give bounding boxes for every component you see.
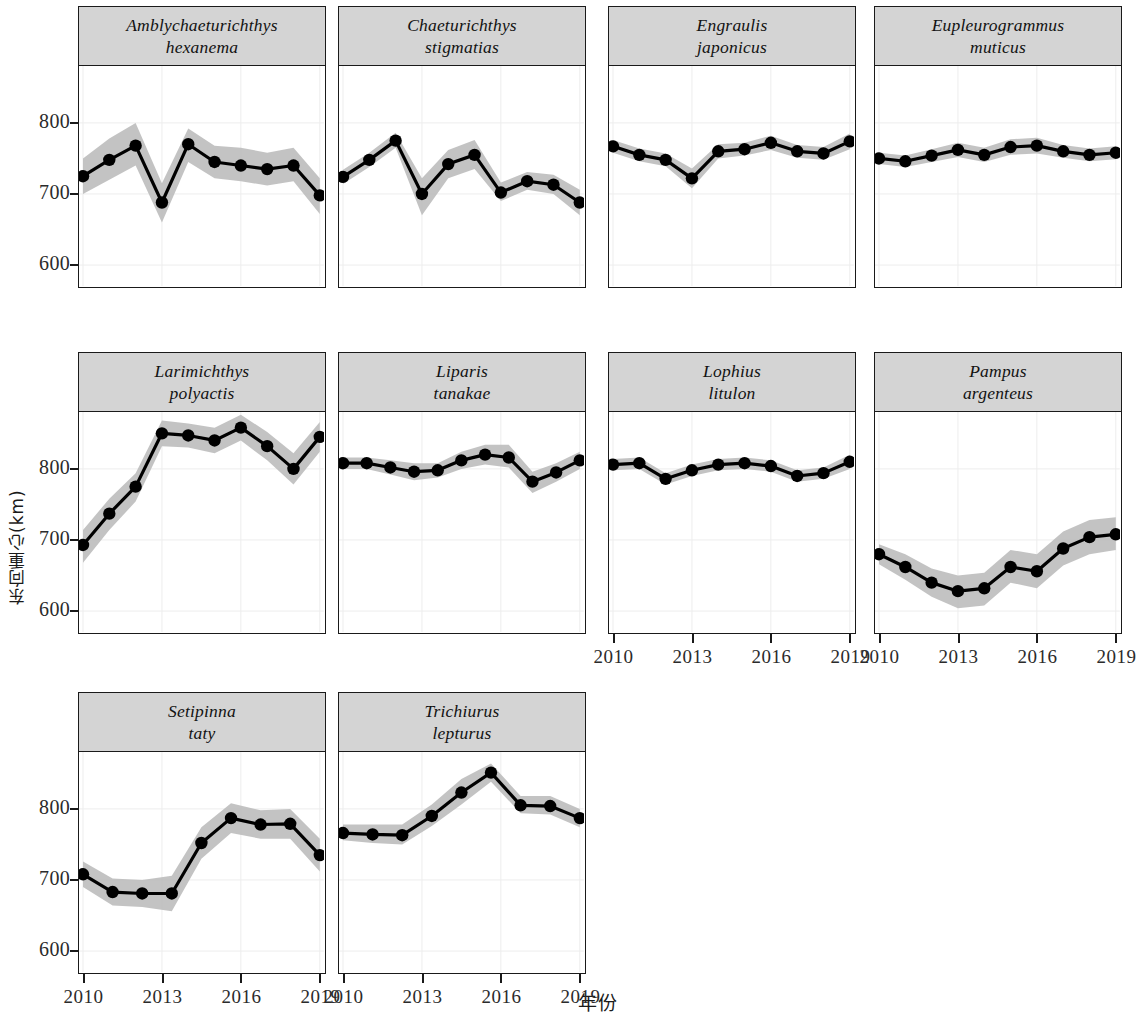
data-point: [765, 137, 777, 149]
data-point: [468, 149, 480, 161]
panel-title-genus: Setipinna: [79, 700, 325, 722]
data-point: [208, 434, 220, 446]
data-point: [738, 457, 750, 469]
panel-plot-area: [338, 752, 586, 974]
series-plot: [609, 66, 854, 286]
data-point: [1083, 149, 1095, 161]
data-point: [978, 582, 990, 594]
data-point: [738, 143, 750, 155]
data-point: [432, 464, 444, 476]
panel-title-strip: Setipinnataty: [78, 692, 326, 752]
data-point: [686, 172, 698, 184]
x-tick-label: 2019: [1081, 646, 1137, 668]
x-tick-mark: [422, 974, 424, 983]
data-point: [103, 154, 115, 166]
x-tick-mark: [162, 974, 164, 983]
data-point: [952, 144, 964, 156]
x-tick-label: 2019: [545, 986, 615, 1008]
x-tick-mark: [879, 634, 881, 643]
panel-title-genus: Chaeturichthys: [339, 14, 585, 36]
data-point: [503, 451, 515, 463]
data-point: [1057, 145, 1069, 157]
x-tick-label: 2010: [49, 986, 119, 1008]
x-tick-label: 2013: [388, 986, 458, 1008]
confidence-band: [83, 803, 320, 911]
y-tick-mark: [70, 468, 79, 470]
x-tick-mark: [1115, 634, 1117, 643]
panel-plot-area: [78, 412, 326, 634]
data-point: [791, 470, 803, 482]
data-point: [521, 175, 533, 187]
x-tick-label: 2010: [579, 646, 649, 668]
data-point: [366, 828, 378, 840]
series-plot: [339, 752, 584, 972]
data-point: [899, 561, 911, 573]
data-point: [550, 466, 562, 478]
panel-title-strip: Pampusargenteus: [874, 352, 1122, 412]
panel-title-species: tanakae: [339, 382, 585, 404]
panel-chaeturichthys-stigmatias: Chaeturichthysstigmatias: [338, 6, 586, 288]
data-point: [633, 457, 645, 469]
x-tick-label: 2016: [1002, 646, 1072, 668]
data-point: [287, 159, 299, 171]
data-point: [952, 585, 964, 597]
data-point: [182, 429, 194, 441]
data-point: [156, 196, 168, 208]
y-tick-mark: [70, 264, 79, 266]
data-point: [817, 467, 829, 479]
x-tick-mark: [579, 974, 581, 983]
y-tick-mark: [70, 879, 79, 881]
data-point: [659, 473, 671, 485]
panel-larimichthys-polyactis: Larimichthyspolyactis: [78, 352, 326, 634]
data-point: [925, 149, 937, 161]
data-point: [225, 812, 237, 824]
panel-title-genus: Trichiurus: [339, 700, 585, 722]
data-point: [261, 163, 273, 175]
data-point: [479, 448, 491, 460]
data-point: [485, 766, 497, 778]
confidence-band: [613, 134, 850, 189]
data-point: [129, 480, 141, 492]
data-point: [103, 507, 115, 519]
panel-plot-area: [78, 66, 326, 288]
x-tick-mark: [319, 974, 321, 983]
data-point: [195, 837, 207, 849]
data-point: [925, 576, 937, 588]
x-tick-mark: [613, 634, 615, 643]
data-point: [106, 886, 118, 898]
y-tick-label: 700: [22, 527, 70, 550]
x-tick-label: 2016: [736, 646, 806, 668]
panel-lophius-litulon: Lophiuslitulon: [608, 352, 856, 634]
panel-setipinna-taty: Setipinnataty: [78, 692, 326, 974]
data-point: [384, 461, 396, 473]
x-tick-mark: [500, 974, 502, 983]
data-point: [544, 800, 556, 812]
data-point: [1057, 542, 1069, 554]
series-plot: [609, 412, 854, 632]
data-point: [455, 454, 467, 466]
x-tick-mark: [849, 634, 851, 643]
data-point: [261, 440, 273, 452]
data-point: [978, 149, 990, 161]
y-tick-label: 700: [22, 181, 70, 204]
panel-title-genus: Liparis: [339, 360, 585, 382]
data-point: [426, 810, 438, 822]
panel-title-strip: Trichiuruslepturus: [338, 692, 586, 752]
data-point: [1004, 141, 1016, 153]
x-tick-mark: [692, 634, 694, 643]
data-point: [1083, 531, 1095, 543]
panel-title-strip: Chaeturichthysstigmatias: [338, 6, 586, 66]
data-point: [396, 829, 408, 841]
y-tick-mark: [70, 122, 79, 124]
series-plot: [875, 412, 1120, 632]
data-point: [389, 134, 401, 146]
data-point: [899, 155, 911, 167]
panel-plot-area: [338, 412, 586, 634]
confidence-band: [879, 517, 1116, 608]
panel-title-strip: Eupleurogrammusmuticus: [874, 6, 1122, 66]
x-tick-mark: [83, 974, 85, 983]
x-tick-mark: [343, 974, 345, 983]
data-point: [360, 457, 372, 469]
data-point: [686, 464, 698, 476]
data-point: [659, 154, 671, 166]
